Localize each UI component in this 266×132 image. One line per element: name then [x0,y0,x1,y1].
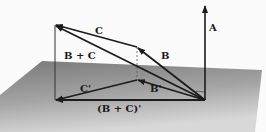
plane [0,61,262,132]
vector-diagram: A B C B + C B' C' (B + C)' [0,0,266,132]
label-b-prime: B' [150,84,162,94]
label-b-plus-c: B + C [64,51,96,61]
label-a: A [209,23,217,33]
label-b-plus-c-prime: (B + C)' [97,104,141,114]
label-c-prime: C' [80,84,91,94]
label-b: B [161,51,169,61]
label-c: C [95,26,103,36]
